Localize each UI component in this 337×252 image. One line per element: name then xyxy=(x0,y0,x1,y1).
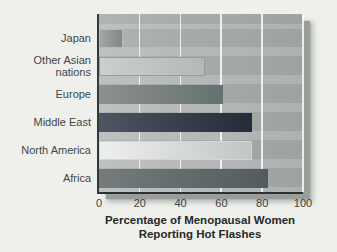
bar-row-other-asian-nations: Other Asian nations xyxy=(99,52,303,80)
category-label-middle-east: Middle East xyxy=(5,116,91,128)
x-tick-label-100: 100 xyxy=(294,197,312,209)
bar-row-north-america: North America xyxy=(99,136,303,164)
category-label-europe: Europe xyxy=(5,88,91,100)
x-tick-label-20: 20 xyxy=(134,197,146,209)
category-label-north-america: North America xyxy=(5,144,91,156)
bar-japan xyxy=(99,29,123,48)
bar-rows: JapanOther Asian nationsEuropeMiddle Eas… xyxy=(99,24,303,192)
bar-row-africa: Africa xyxy=(99,164,303,192)
bar-middle-east xyxy=(99,113,252,132)
category-label-africa: Africa xyxy=(5,172,91,184)
bar-row-japan: Japan xyxy=(99,24,303,52)
x-tick-label-80: 80 xyxy=(256,197,268,209)
bar-row-middle-east: Middle East xyxy=(99,108,303,136)
bar-other-asian-nations xyxy=(99,57,205,76)
bar-africa xyxy=(99,169,268,188)
x-axis-title: Percentage of Menopausal Women Reporting… xyxy=(84,213,316,241)
hot-flashes-bar-chart: JapanOther Asian nationsEuropeMiddle Eas… xyxy=(0,0,337,252)
bar-europe xyxy=(99,85,223,104)
category-label-japan: Japan xyxy=(5,32,91,44)
x-axis-title-line1: Percentage of Menopausal Women xyxy=(84,213,316,227)
category-label-other-asian-nations: Other Asian nations xyxy=(5,54,91,78)
x-tick-label-60: 60 xyxy=(215,197,227,209)
x-tick-label-0: 0 xyxy=(96,197,102,209)
bar-north-america xyxy=(99,141,252,160)
x-tick-label-40: 40 xyxy=(174,197,186,209)
plot-area: JapanOther Asian nationsEuropeMiddle Eas… xyxy=(97,14,303,194)
x-axis: 020406080100 xyxy=(99,197,303,211)
x-axis-title-line2: Reporting Hot Flashes xyxy=(84,227,316,241)
bar-row-europe: Europe xyxy=(99,80,303,108)
